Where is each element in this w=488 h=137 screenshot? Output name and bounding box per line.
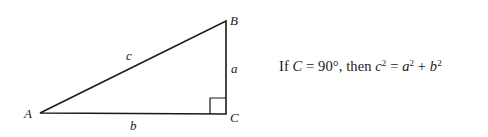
vertex-label-c: C (230, 110, 239, 125)
side-label-c: c (126, 48, 132, 63)
vertex-label-b: B (230, 13, 238, 28)
triangle-outline (40, 21, 226, 114)
formula-condition: = 90°, then (302, 58, 375, 74)
right-angle-marker (210, 98, 226, 114)
pythagorean-formula: If C = 90°, then c2 = a2 + b2 (279, 58, 442, 75)
formula-plus: + (414, 58, 430, 74)
side-label-a: a (231, 61, 238, 76)
formula-equals: = (386, 58, 402, 74)
formula-exponent: 2 (437, 58, 442, 68)
formula-var-C: C (293, 58, 303, 74)
formula-prefix: If (279, 58, 293, 74)
side-label-b: b (130, 118, 137, 133)
vertex-label-a: A (23, 106, 32, 121)
formula-var-a: a (402, 58, 409, 74)
